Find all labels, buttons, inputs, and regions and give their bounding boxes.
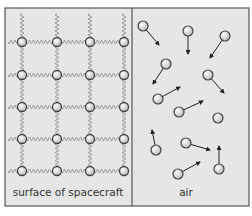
surface-label: surface of spacecraft — [13, 186, 124, 198]
air-molecule — [181, 138, 191, 148]
lattice-atom — [18, 135, 27, 144]
air-molecule — [214, 164, 224, 174]
lattice-atom — [53, 135, 62, 144]
lattice-atom — [18, 38, 27, 47]
air-molecule — [213, 113, 223, 123]
lattice-atom — [120, 167, 129, 176]
air-molecule — [161, 59, 171, 69]
air-molecule — [138, 21, 148, 31]
lattice-atom — [53, 103, 62, 112]
lattice-atom — [120, 38, 129, 47]
air-molecule — [203, 70, 213, 80]
lattice-atom — [86, 71, 95, 80]
air-molecule — [174, 107, 184, 117]
air-molecule — [173, 169, 183, 179]
lattice-atom — [53, 71, 62, 80]
lattice-atom — [18, 103, 27, 112]
lattice-atom — [86, 103, 95, 112]
lattice-atom — [53, 167, 62, 176]
air-molecule — [151, 145, 161, 155]
air-label: air — [179, 186, 193, 198]
surface-panel: surface of spacecraft — [8, 14, 129, 198]
lattice-atom — [53, 38, 62, 47]
spacecraft-vs-air-diagram: surface of spacecraft air — [0, 0, 252, 216]
lattice-atom — [86, 38, 95, 47]
lattice-atom — [18, 167, 27, 176]
lattice-atom — [120, 103, 129, 112]
lattice-atom — [86, 167, 95, 176]
lattice-atom — [86, 135, 95, 144]
lattice-atom — [120, 135, 129, 144]
air-molecule — [153, 94, 163, 104]
lattice-atom — [18, 71, 27, 80]
air-molecule — [220, 31, 230, 41]
lattice-atom — [120, 71, 129, 80]
air-molecule — [183, 26, 193, 36]
